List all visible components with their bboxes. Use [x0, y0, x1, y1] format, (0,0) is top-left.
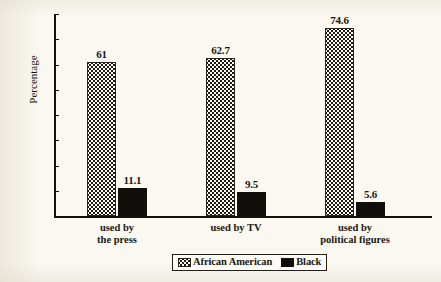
legend-swatch-solid — [281, 258, 294, 267]
bar-value-label: 61 — [96, 49, 107, 60]
category-label-line: political figures — [285, 234, 425, 246]
y-axis-tick — [54, 191, 59, 192]
chart-legend: African AmericanBlack — [172, 254, 327, 271]
y-axis-tick — [54, 90, 59, 91]
bar-value-label: 9.5 — [245, 179, 258, 190]
x-axis-line — [54, 216, 432, 218]
plot-area: 6111.162.79.574.65.6 — [54, 14, 432, 216]
bar-value-label: 5.6 — [364, 189, 377, 200]
y-axis-tick — [54, 39, 59, 40]
y-axis-tick — [54, 140, 59, 141]
bar: 9.5 — [237, 192, 266, 216]
y-axis-tick — [54, 14, 59, 15]
bar-value-label: 62.7 — [211, 45, 229, 56]
bar: 61 — [87, 62, 116, 216]
x-axis-category-label: used bypolitical figures — [285, 222, 425, 246]
y-axis-title: Percentage — [28, 35, 39, 125]
legend-item: African American — [178, 257, 272, 268]
y-axis-tick — [54, 65, 59, 66]
chart-figure: Percentage 80706050403020100 6111.162.79… — [0, 0, 441, 282]
bar-value-label: 11.1 — [124, 175, 142, 186]
bar: 5.6 — [356, 202, 385, 216]
legend-swatch-dotted — [178, 258, 191, 267]
category-label-line: the press — [47, 234, 187, 246]
legend-label: African American — [193, 257, 272, 268]
legend-item: Black — [281, 257, 321, 268]
legend-label: Black — [296, 257, 321, 268]
y-axis-tick — [54, 115, 59, 116]
bar: 62.7 — [206, 58, 235, 216]
y-axis-tick — [54, 216, 59, 217]
category-label-line: used by — [285, 222, 425, 234]
bar: 11.1 — [118, 188, 147, 216]
bar-value-label: 74.6 — [330, 15, 348, 26]
y-axis-tick — [54, 166, 59, 167]
bar: 74.6 — [325, 28, 354, 216]
